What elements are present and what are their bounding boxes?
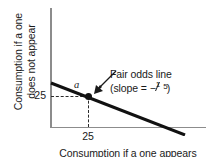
data-point-a-label: a: [74, 79, 79, 90]
y-axis-label: Consumption if a one does not appear: [12, 0, 37, 137]
fair-odds-callout: Fair odds line (slope = −15): [110, 68, 172, 94]
dashed-guide-vertical: [88, 96, 89, 127]
fair-odds-line-chart: Consumption if a one does not appear Con…: [0, 0, 211, 157]
callout-slope-prefix: (slope = −: [110, 82, 156, 94]
fraction-denominator: 5: [163, 81, 167, 94]
y-axis: [50, 8, 52, 128]
x-tick-label-25: 25: [72, 130, 104, 142]
x-axis: [50, 127, 206, 129]
y-tick-label-25: 25: [26, 89, 46, 101]
x-axis-label: Consumption if a one appears: [50, 147, 206, 157]
slope-fraction: 15: [156, 81, 167, 93]
data-point-a-marker: [85, 93, 92, 100]
callout-line-1: Fair odds line: [110, 68, 172, 80]
dashed-guide-horizontal: [51, 96, 88, 97]
callout-line-2: (slope = −15): [110, 81, 172, 95]
